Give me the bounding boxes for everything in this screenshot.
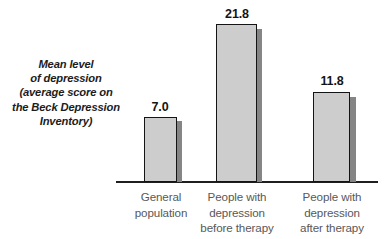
category-label-2-line-2: depression [190, 205, 284, 221]
bar-value-label-3: 11.8 [302, 75, 362, 88]
plot-area: 7.0 General population 21.8 People with … [0, 0, 385, 239]
category-label-3: People with depression after therapy [285, 189, 379, 236]
category-label-2-line-1: People with [190, 189, 284, 205]
bar-3[interactable] [313, 92, 350, 182]
category-label-3-line-1: People with [285, 189, 379, 205]
category-label-3-line-2: depression [285, 205, 379, 221]
category-label-3-line-3: after therapy [285, 220, 379, 236]
depression-bar-chart: Mean level of depression (average score … [0, 0, 385, 239]
category-label-2: People with depression before therapy [190, 189, 284, 236]
bar-value-label-1: 7.0 [130, 101, 190, 114]
bar-1[interactable] [144, 117, 177, 182]
category-label-2-line-3: before therapy [190, 220, 284, 236]
bar-2[interactable] [216, 24, 257, 182]
bar-value-label-2: 21.8 [206, 8, 268, 21]
